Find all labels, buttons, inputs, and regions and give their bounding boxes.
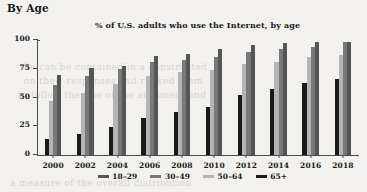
x-axis-tick-label: 2008 bbox=[171, 161, 192, 170]
x-axis-tick-mark bbox=[342, 155, 343, 158]
bar-group: 2002 bbox=[69, 40, 101, 155]
legend-item[interactable]: 18–29 bbox=[98, 172, 138, 181]
y-axis-tick-label: 75 bbox=[20, 64, 30, 72]
bar-groups: 2000200220042006200820102012201420162018 bbox=[37, 40, 359, 155]
x-axis-tick-label: 2004 bbox=[107, 161, 128, 170]
bar-group: 2000 bbox=[37, 40, 69, 155]
x-axis-tick-mark bbox=[149, 155, 150, 158]
bar bbox=[251, 45, 255, 155]
x-axis-tick-mark bbox=[53, 155, 54, 158]
bar bbox=[283, 43, 287, 155]
y-axis-tick-label: 25 bbox=[20, 121, 30, 129]
section-heading: By Age bbox=[7, 2, 49, 14]
x-axis-tick-label: 2016 bbox=[300, 161, 321, 170]
bar bbox=[57, 75, 61, 156]
legend-item[interactable]: 65+ bbox=[256, 172, 288, 181]
x-axis-tick-mark bbox=[278, 155, 279, 158]
legend-label: 18–29 bbox=[112, 172, 137, 181]
x-axis-tick-mark bbox=[117, 155, 118, 158]
x-axis-tick-label: 2012 bbox=[236, 161, 257, 170]
y-axis-tick-label: 0 bbox=[25, 150, 30, 158]
bar-group: 2006 bbox=[134, 40, 166, 155]
bar-group: 2018 bbox=[327, 40, 359, 155]
x-axis-tick-label: 2000 bbox=[42, 161, 63, 170]
chart-title: % of U.S. adults who use the Internet, b… bbox=[0, 20, 367, 30]
bar bbox=[89, 68, 93, 155]
x-axis-tick-label: 2014 bbox=[268, 161, 289, 170]
legend-label: 30–49 bbox=[165, 172, 190, 181]
x-axis-tick-label: 2010 bbox=[203, 161, 224, 170]
x-axis-tick-label: 2006 bbox=[139, 161, 160, 170]
x-axis-tick-label: 2018 bbox=[332, 161, 353, 170]
bar-group: 2016 bbox=[295, 40, 327, 155]
chart-page: the can be contained in a constructed on… bbox=[0, 0, 367, 192]
x-axis-tick-label: 2002 bbox=[75, 161, 96, 170]
x-axis-tick-mark bbox=[85, 155, 86, 158]
x-axis-tick-mark bbox=[246, 155, 247, 158]
x-axis-tick-mark bbox=[310, 155, 311, 158]
bar bbox=[315, 42, 319, 155]
bar bbox=[122, 66, 126, 155]
y-axis-tick-label: 50 bbox=[20, 93, 30, 101]
bar-group: 2010 bbox=[198, 40, 230, 155]
legend-item[interactable]: 50–64 bbox=[203, 172, 243, 181]
bar-group: 2008 bbox=[166, 40, 198, 155]
legend-swatch-icon bbox=[98, 175, 109, 178]
bar bbox=[218, 49, 222, 155]
legend-swatch-icon bbox=[203, 175, 214, 178]
x-axis-tick-mark bbox=[214, 155, 215, 158]
legend-swatch-icon bbox=[150, 175, 161, 178]
chart-legend: 18–2930–4950–6465+ bbox=[0, 172, 367, 181]
x-axis-tick-mark bbox=[181, 155, 182, 158]
bar bbox=[186, 54, 190, 155]
bar-group: 2012 bbox=[230, 40, 262, 155]
legend-label: 65+ bbox=[270, 172, 287, 181]
bar bbox=[347, 42, 351, 155]
legend-label: 50–64 bbox=[218, 172, 243, 181]
legend-swatch-icon bbox=[256, 175, 267, 178]
bar-group: 2014 bbox=[262, 40, 294, 155]
bar bbox=[154, 56, 158, 155]
bar-group: 2004 bbox=[101, 40, 133, 155]
legend-item[interactable]: 30–49 bbox=[150, 172, 190, 181]
plot-area: 0255075100 20002002200420062008201020122… bbox=[37, 40, 359, 155]
y-axis-tick-label: 100 bbox=[14, 35, 30, 43]
